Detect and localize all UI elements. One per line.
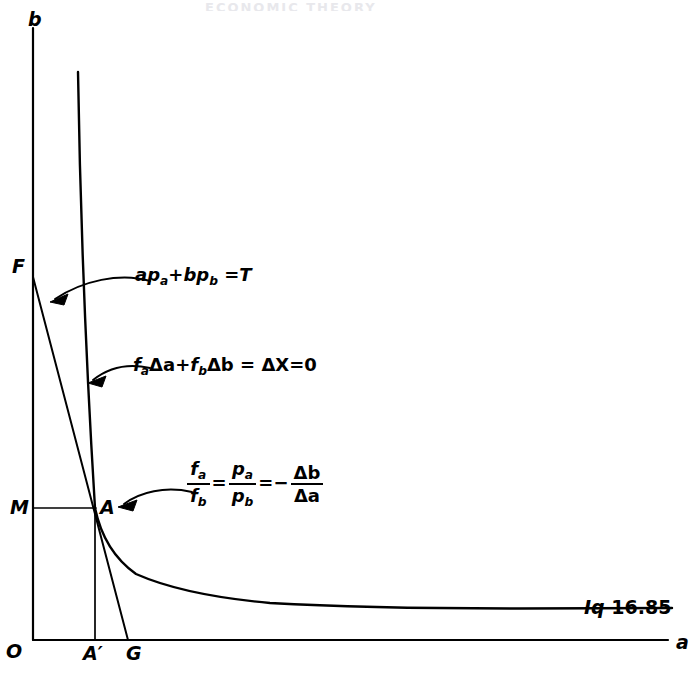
eq3-f-den: f: [190, 485, 198, 506]
eq2-delta-b: Δb: [207, 354, 234, 375]
eq3-p-num: p: [232, 458, 245, 479]
eq2-plus: +: [175, 354, 190, 375]
point-label-m: M: [10, 498, 29, 517]
eq3-p-den: p: [232, 485, 245, 506]
budget-constraint-equation: apa+bpb =T: [135, 266, 252, 287]
isoquant-value: 16.85: [611, 596, 671, 618]
frac-f-den: fb: [187, 485, 210, 509]
eq3-p-den-sub: b: [245, 495, 254, 509]
eq3-minus: −: [273, 472, 288, 493]
isoquant-curve: [78, 72, 672, 609]
eq2-fb: f: [190, 354, 198, 375]
eq2-sub-a: a: [141, 364, 149, 378]
eq2-sub-b: b: [198, 364, 207, 378]
frac-delta-num: Δb: [291, 463, 324, 485]
isoquant-label: Iq 16.85: [584, 596, 671, 618]
point-label-a: A: [100, 498, 115, 517]
tangency-condition-equation: fa fb = pa pb =− Δb Δa: [185, 459, 325, 509]
eq2-delta-a: Δa: [149, 354, 175, 375]
eq3-equals-2: =: [258, 472, 273, 493]
eq1-pb: p: [196, 264, 209, 285]
point-label-f: F: [12, 257, 25, 276]
frac-p-ratio: pa pb: [229, 459, 257, 509]
frac-f-ratio: fa fb: [187, 459, 210, 509]
eq1-pa: p: [147, 264, 160, 285]
frac-f-num: fa: [187, 459, 210, 485]
total-differential-equation: faΔa+fbΔb = ΔX=0: [133, 356, 317, 377]
frac-delta-den: Δa: [291, 485, 324, 505]
origin-label: O: [6, 642, 22, 661]
budget-line: [33, 277, 128, 640]
eq3-f-num-sub: a: [198, 468, 206, 482]
point-label-a-prime: A′: [83, 644, 103, 663]
eq3-f-num: f: [190, 458, 198, 479]
eq3-equals-1: =: [212, 472, 227, 493]
eq1-sub-b: b: [209, 274, 218, 288]
point-label-g: G: [126, 644, 142, 663]
isoquant-figure: ECONOMIC THEORY b a O F M A A′ G apa+b: [0, 0, 698, 680]
x-axis-label: a: [676, 633, 689, 652]
eq3-f-den-sub: b: [198, 495, 207, 509]
eq2-equals-2: =: [289, 354, 304, 375]
eq3-p-num-sub: a: [245, 468, 253, 482]
eq2-equals-1: =: [240, 354, 255, 375]
eq2-fa: f: [133, 354, 141, 375]
diagram-canvas: [0, 0, 698, 680]
y-axis-label: b: [28, 10, 42, 29]
eq1-plus: +: [168, 264, 183, 285]
frac-p-num: pa: [229, 459, 257, 485]
frac-delta-ratio: Δb Δa: [291, 463, 324, 506]
isoquant-symbol: Iq: [584, 596, 605, 618]
eq1-a: a: [135, 264, 147, 285]
frac-p-den: pb: [229, 485, 257, 509]
eq1-t: T: [239, 264, 251, 285]
eq1-b: b: [183, 264, 196, 285]
eq1-equals: =: [224, 264, 239, 285]
eq2-zero: 0: [304, 354, 317, 375]
eq2-delta-x: ΔX: [261, 354, 289, 375]
